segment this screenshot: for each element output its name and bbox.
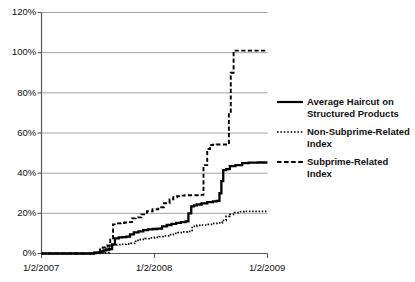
series-line-average-haircut-on-structured-products xyxy=(42,163,268,254)
chart-figure: 120% 100% 80% 60% 40% 20% 0% 1/2/2007 1/… xyxy=(0,0,415,282)
legend-label-average-haircut: Average Haircut on Structured Products xyxy=(307,96,415,119)
y-tick-label-0: 0% xyxy=(2,247,36,258)
legend-entry-non-subprime: Non-Subprime-Related Index xyxy=(277,126,415,149)
y-tick-label-100: 100% xyxy=(2,46,36,57)
y-tick-label-120: 120% xyxy=(2,6,36,17)
legend-line-dotted-icon xyxy=(277,126,303,140)
chart-legend: Average Haircut on Structured Products N… xyxy=(277,96,415,186)
y-tick-label-80: 80% xyxy=(2,87,36,98)
legend-label-subprime: Subprime-Related Index xyxy=(307,156,415,179)
series-line-non-subprime-related-index xyxy=(42,211,268,253)
x-tick-label-2008: 1/2/2008 xyxy=(119,262,189,273)
legend-entry-average-haircut: Average Haircut on Structured Products xyxy=(277,96,415,119)
x-tick-label-2009: 1/2/2009 xyxy=(232,262,302,273)
data-series-group xyxy=(42,51,268,254)
gridlines-group xyxy=(42,13,268,214)
legend-line-dashed-icon xyxy=(277,156,303,170)
legend-entry-subprime: Subprime-Related Index xyxy=(277,156,415,179)
x-tick-label-2007: 1/2/2007 xyxy=(6,262,76,273)
legend-label-non-subprime: Non-Subprime-Related Index xyxy=(307,126,415,149)
y-tick-label-40: 40% xyxy=(2,167,36,178)
y-tick-label-20: 20% xyxy=(2,207,36,218)
legend-line-solid-icon xyxy=(277,96,303,110)
y-tick-label-60: 60% xyxy=(2,127,36,138)
series-line-subprime-related-index xyxy=(42,51,268,254)
